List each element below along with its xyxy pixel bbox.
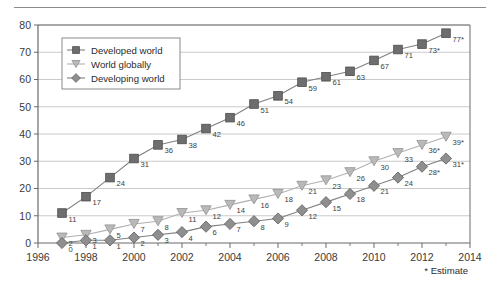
data-point-marker [128,232,139,243]
x-tick-label: 1996 [26,251,50,263]
data-point-marker [393,149,403,158]
data-point-label: 6 [213,228,217,237]
data-point-marker [226,113,235,122]
x-tick-label: 2010 [362,251,386,263]
data-point-label: 24 [405,179,413,188]
data-point-marker [370,56,379,65]
data-point-marker [442,29,451,38]
data-point-marker [200,221,211,232]
y-tick-label: 0 [25,237,31,249]
chart-legend: Developed worldWorld globallyDeveloping … [62,38,180,89]
legend-item-label: World globally [91,59,151,70]
data-point-marker [225,200,235,209]
data-point-label: 9 [285,220,289,229]
data-point-label: 31 [141,160,149,169]
data-point-label: 46 [237,119,245,128]
data-point-marker [250,100,259,109]
data-point-label: 21 [381,187,389,196]
data-point-label: 8 [261,223,265,232]
data-point-marker [80,235,91,246]
data-point-label: 38 [189,141,197,150]
data-point-label: 14 [237,206,245,215]
y-tick-label: 10 [19,210,31,222]
data-point-label: 73* [429,46,440,55]
data-point-label: 8 [165,223,169,232]
data-point-label: 7 [141,225,145,234]
estimate-footnote: * Estimate [424,265,468,276]
data-point-marker [249,195,259,204]
data-point-marker [274,92,283,101]
data-point-label: 67 [381,62,389,71]
data-point-label: 11 [69,215,77,224]
legend-item-label: Developed world [91,45,162,56]
data-point-marker [105,225,115,234]
data-point-label: 59 [309,84,317,93]
data-point-label: 18 [285,195,293,204]
data-point-marker [224,218,235,229]
x-tick-label: 2008 [314,251,338,263]
data-point-marker [178,135,187,144]
data-point-label: 63 [357,73,365,82]
data-point-marker [344,188,355,199]
data-point-marker [56,237,67,248]
x-tick-label: 2014 [458,251,482,263]
data-point-marker [298,78,307,87]
data-point-label: 16 [261,201,269,210]
legend-item-label: Developing world [91,73,165,84]
data-point-label: 42 [213,130,221,139]
data-point-marker [176,227,187,238]
line-chart-canvas: 01020304050607080 1996199820002002200420… [0,0,500,287]
data-point-marker [73,47,80,54]
y-tick-label: 30 [19,155,31,167]
data-point-marker [418,40,427,49]
x-tick-label: 2004 [218,251,242,263]
data-point-label: 11 [189,215,197,224]
estimate-footnote-text: * Estimate [424,265,468,276]
data-point-marker [272,213,283,224]
data-point-label: 36 [165,146,173,155]
data-point-label: 12 [213,212,221,221]
data-point-marker [104,235,115,246]
data-point-marker [82,192,91,201]
y-tick-label: 20 [19,182,31,194]
data-point-marker [152,229,163,240]
data-point-marker [417,140,427,149]
data-point-label: 24 [117,179,125,188]
x-axis-tick-labels: 1996199820002002200420062008201020122014 [26,251,482,263]
data-point-label: 18 [357,195,365,204]
x-tick-label: 2002 [170,251,194,263]
data-point-label: 54 [285,97,293,106]
data-point-marker [296,205,307,216]
data-point-label: 4 [189,234,193,243]
data-point-label: 71 [405,51,413,60]
x-tick-label: 1998 [74,251,98,263]
data-point-label: 2 [141,239,145,248]
data-point-label: 3 [165,236,169,245]
data-point-label: 0 [69,245,73,254]
data-point-marker [440,153,451,164]
data-point-label: 31* [453,160,464,169]
data-point-label: 21 [309,187,317,196]
data-point-label: 1 [117,242,121,251]
data-point-marker [58,209,67,218]
data-point-label: 51 [261,106,269,115]
data-point-label: 28* [429,168,440,177]
data-point-marker [392,172,403,183]
data-point-label: 7 [237,225,241,234]
chart-figure: 01020304050607080 1996199820002002200420… [0,0,500,287]
y-tick-label: 60 [19,73,31,85]
data-point-marker [346,67,355,76]
data-point-marker [248,216,259,227]
data-point-label: 23 [333,182,341,191]
data-point-label: 33 [405,155,413,164]
data-point-label: 17 [93,198,101,207]
data-point-marker [154,141,163,150]
data-point-label: 39* [453,138,464,147]
data-point-marker [202,124,211,133]
x-tick-label: 2012 [410,251,434,263]
data-point-label: 5 [117,231,121,240]
y-tick-label: 50 [19,101,31,113]
data-point-label: 61 [333,78,341,87]
y-axis-tick-labels: 01020304050607080 [19,19,31,249]
data-point-marker [130,154,139,163]
